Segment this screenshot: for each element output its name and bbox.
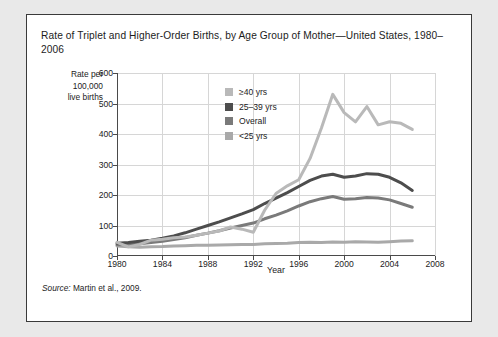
y-tick-mark [113, 165, 117, 166]
y-tick-mark [113, 195, 117, 196]
x-tick-mark [299, 256, 300, 260]
x-axis-title: Year [117, 265, 435, 275]
legend-label-overall: Overall [239, 116, 266, 126]
x-tick-mark [435, 256, 436, 260]
legend-swatch-ge40 [225, 88, 233, 96]
source-label: Source: [42, 283, 71, 293]
legend-item-overall: Overall [225, 114, 345, 129]
y-tick-label: 100 [73, 221, 113, 231]
legend-item-25-39: 25–39 yrs [225, 100, 345, 115]
source-note: Source: Martin et al., 2009. [42, 283, 142, 293]
figure-title: Rate of Triplet and Higher-Order Births,… [41, 29, 451, 57]
legend-swatch-25-39 [225, 103, 233, 111]
y-tick-mark [113, 226, 117, 227]
x-tick-mark [344, 256, 345, 260]
y-axis-title-line-2: 100,000 [41, 81, 103, 93]
y-tick-mark [113, 134, 117, 135]
legend-label-25-39: 25–39 yrs [239, 102, 277, 112]
y-tick-label: 200 [73, 190, 113, 200]
y-tick-label: 300 [73, 160, 113, 170]
gridline-vertical [435, 73, 436, 256]
figure-card: Rate of Triplet and Higher-Order Births,… [26, 14, 472, 322]
y-tick-label: 400 [73, 129, 113, 139]
x-tick-mark [162, 256, 163, 260]
x-tick-mark [253, 256, 254, 260]
y-tick-label: 500 [73, 99, 113, 109]
x-tick-mark [117, 256, 118, 260]
legend-label-lt25: <25 yrs [239, 131, 267, 141]
legend-swatch-overall [225, 117, 233, 125]
legend-item-ge40: ≥40 yrs [225, 85, 345, 100]
y-tick-mark [113, 73, 117, 74]
chart-legend: ≥40 yrs 25–39 yrs Overall <25 yrs [225, 85, 345, 143]
source-value: Martin et al., 2009. [71, 283, 142, 293]
plot-region: 0100200300400500600198019841988199219962… [117, 73, 435, 256]
x-tick-mark [390, 256, 391, 260]
y-tick-mark [113, 104, 117, 105]
legend-item-lt25: <25 yrs [225, 129, 345, 144]
y-tick-label: 600 [73, 68, 113, 78]
legend-label-ge40: ≥40 yrs [239, 87, 267, 97]
x-tick-mark [208, 256, 209, 260]
legend-swatch-lt25 [225, 132, 233, 140]
chart-area: Rate per 100,000 live births 01002003004… [41, 67, 455, 277]
